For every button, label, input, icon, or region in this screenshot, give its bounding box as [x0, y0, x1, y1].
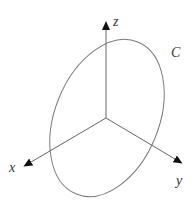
- x-axis-label: x: [8, 160, 16, 175]
- z-axis-label: z: [112, 14, 119, 29]
- x-axis: [26, 118, 106, 165]
- y-axis: [106, 118, 180, 162]
- curve-c-label: C: [171, 45, 181, 60]
- coordinate-diagram: z x y C: [0, 0, 193, 209]
- y-axis-label: y: [174, 173, 183, 188]
- curve-c: [28, 22, 186, 209]
